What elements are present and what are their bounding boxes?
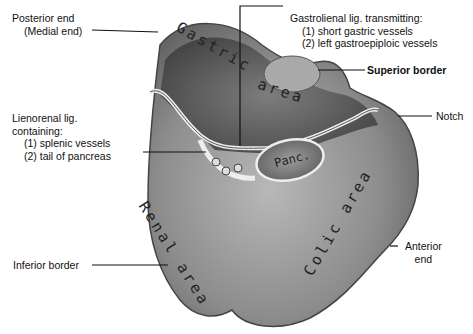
lienorenal-ligament-label: Lienorenal lig. containing: (1) splenic … xyxy=(12,112,111,162)
notch-label: Notch xyxy=(436,110,463,123)
superior-border-label: Superior border xyxy=(367,64,446,77)
lienorenal-item-1: (1) splenic vessels xyxy=(12,137,111,150)
lienorenal-line2: containing: xyxy=(12,125,111,138)
gastrolienal-ligament-label: Gastrolienal lig. transmitting: (1) shor… xyxy=(290,12,437,50)
anterior-end-label: Anterior end xyxy=(405,240,442,265)
lienorenal-line1: Lienorenal lig. xyxy=(12,112,111,125)
gastrolienal-title: Gastrolienal lig. transmitting: xyxy=(290,12,437,25)
posterior-end-line1: Posterior end xyxy=(12,12,82,25)
lienorenal-item-2: (2) tail of pancreas xyxy=(12,150,111,163)
inferior-border-label: Inferior border xyxy=(13,259,79,272)
posterior-end-label: Posterior end (Medial end) xyxy=(12,12,82,37)
spleen-diagram: Gastric area Renal area Colic area Panc.… xyxy=(0,0,473,334)
gastrolienal-item-1: (1) short gastric vessels xyxy=(290,25,437,38)
posterior-end-line2: (Medial end) xyxy=(12,25,82,38)
anterior-end-line1: Anterior xyxy=(405,240,442,253)
anterior-end-line2: end xyxy=(405,253,442,266)
gastrolienal-item-2: (2) left gastroepiploic vessels xyxy=(290,37,437,50)
